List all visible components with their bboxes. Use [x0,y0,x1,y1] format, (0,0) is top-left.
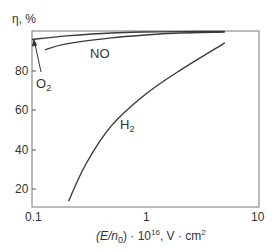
x-label-sup2: 2 [201,228,205,237]
o2-arrow [33,40,42,72]
x-tick-label-0.1: 0.1 [25,211,42,223]
x-label-part1: (E/n [96,229,118,243]
y-tick-label-60: 60 [15,104,28,116]
plot-frame [32,31,259,207]
series-label-no: NO [90,47,110,60]
x-axis-label: (E/n0) · 1016, V · cm2 [96,229,206,245]
series-label-o2: O2 [36,77,51,93]
series-label-h2: H2 [120,118,134,134]
h2-sub: 2 [129,124,134,134]
y-tick-label-20: 20 [15,183,28,195]
o2-main: O [36,76,46,91]
y-tick-label-40: 40 [15,144,28,156]
h2-main: H [120,117,129,132]
curve-h2 [69,43,225,201]
y-tick-label-80: 80 [15,65,28,77]
o2-sub: 2 [46,83,51,93]
x-tick-label-1: 1 [143,211,150,223]
x-label-part3: , V · cm [160,229,201,243]
curve-no [45,32,225,50]
x-tick-label-10: 10 [251,211,264,223]
x-label-part2: ) · 10 [123,229,151,243]
y-axis-label: η, % [12,13,36,25]
x-label-sup1: 16 [151,228,160,237]
